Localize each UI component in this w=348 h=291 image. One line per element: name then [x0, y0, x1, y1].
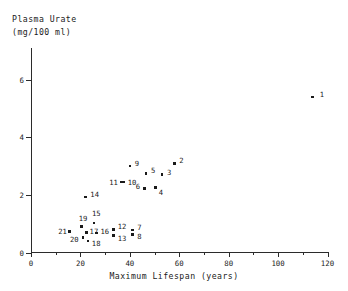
- y-tick-6: [26, 80, 31, 81]
- data-point-2: [173, 162, 176, 165]
- data-point-21: [68, 230, 71, 233]
- y-tick-label-4: 4: [12, 133, 24, 142]
- data-point-label-11: 11: [109, 179, 118, 186]
- y-tick-label-2: 2: [12, 191, 24, 200]
- data-point-label-5: 5: [151, 167, 155, 174]
- x-tick-label-100: 100: [266, 259, 290, 268]
- scatter-plot-figure: Plasma Urate (mg/100 ml) 0246 0204060801…: [0, 0, 348, 291]
- data-point-10: [122, 181, 125, 184]
- x-tick-0: [31, 252, 32, 257]
- data-point-label-4: 4: [159, 189, 163, 196]
- x-tick-minor-30: [105, 252, 106, 255]
- data-point-label-12: 12: [118, 223, 127, 230]
- data-point-label-17: 17: [90, 228, 99, 235]
- data-point-7: [131, 229, 134, 232]
- x-tick-label-120: 120: [316, 259, 340, 268]
- data-point-3: [161, 173, 164, 176]
- x-tick-40: [130, 252, 131, 257]
- data-point-label-9: 9: [135, 160, 139, 167]
- y-axis-title-line2: (mg/100 ml): [12, 27, 71, 37]
- data-point-12: [112, 228, 115, 231]
- x-axis-title: Maximum Lifespan (years): [0, 271, 348, 281]
- data-point-label-3: 3: [167, 169, 171, 176]
- y-tick-4: [26, 137, 31, 138]
- y-tick-label-6: 6: [12, 76, 24, 85]
- data-point-5: [145, 172, 148, 175]
- x-tick-minor-50: [155, 252, 156, 255]
- y-axis-title-line1: Plasma Urate: [12, 14, 77, 24]
- x-tick-label-20: 20: [68, 259, 92, 268]
- y-tick-2: [26, 195, 31, 196]
- data-point-label-18: 18: [92, 240, 101, 247]
- x-tick-minor-90: [253, 252, 254, 255]
- data-point-14: [84, 196, 87, 199]
- data-point-label-14: 14: [90, 191, 99, 198]
- data-point-19: [80, 225, 83, 228]
- data-point-label-10: 10: [128, 179, 137, 186]
- data-point-label-13: 13: [118, 235, 127, 242]
- data-point-1: [311, 96, 314, 99]
- data-point-17: [85, 231, 88, 234]
- x-tick-120: [328, 252, 329, 257]
- y-tick-label-0: 0: [12, 249, 24, 258]
- x-tick-minor-70: [204, 252, 205, 255]
- data-point-label-8: 8: [137, 233, 141, 240]
- y-axis-line: [31, 48, 32, 253]
- data-point-label-1: 1: [320, 91, 324, 98]
- data-point-label-16: 16: [100, 228, 109, 235]
- data-point-9: [129, 165, 132, 168]
- x-tick-label-80: 80: [217, 259, 241, 268]
- x-tick-minor-10: [56, 252, 57, 255]
- data-point-13: [112, 234, 115, 237]
- x-tick-100: [278, 252, 279, 257]
- data-point-11: [120, 181, 123, 184]
- x-tick-label-60: 60: [167, 259, 191, 268]
- data-point-label-19: 19: [79, 215, 88, 222]
- data-point-8: [131, 233, 134, 236]
- data-point-label-7: 7: [137, 224, 141, 231]
- data-point-label-2: 2: [179, 157, 183, 164]
- x-tick-20: [80, 252, 81, 257]
- x-tick-label-40: 40: [118, 259, 142, 268]
- data-point-label-20: 20: [70, 236, 79, 243]
- x-tick-60: [179, 252, 180, 257]
- data-point-6: [143, 187, 146, 190]
- data-point-4: [154, 186, 157, 189]
- data-point-label-15: 15: [92, 210, 101, 217]
- data-point-15: [93, 222, 96, 225]
- data-point-20: [82, 236, 85, 239]
- x-tick-minor-110: [303, 252, 304, 255]
- data-point-18: [87, 240, 90, 243]
- data-point-label-21: 21: [58, 228, 67, 235]
- x-tick-label-0: 0: [19, 259, 43, 268]
- x-tick-80: [229, 252, 230, 257]
